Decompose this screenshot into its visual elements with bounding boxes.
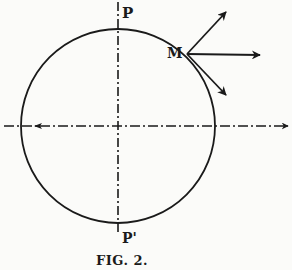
label-m: M xyxy=(167,46,183,60)
vector-horizontal xyxy=(187,54,260,55)
vector-downward-oblique xyxy=(187,54,226,95)
diagram-canvas xyxy=(0,0,292,270)
vector-upward-oblique xyxy=(187,12,226,54)
label-p-prime: P' xyxy=(122,231,137,245)
figure-caption: FIG. 2. xyxy=(96,254,148,267)
label-p: P xyxy=(122,6,133,21)
